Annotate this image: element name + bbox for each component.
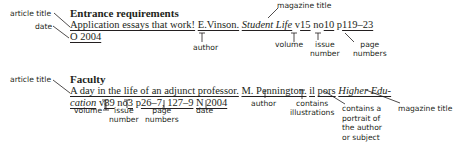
leader-lines bbox=[0, 0, 463, 143]
